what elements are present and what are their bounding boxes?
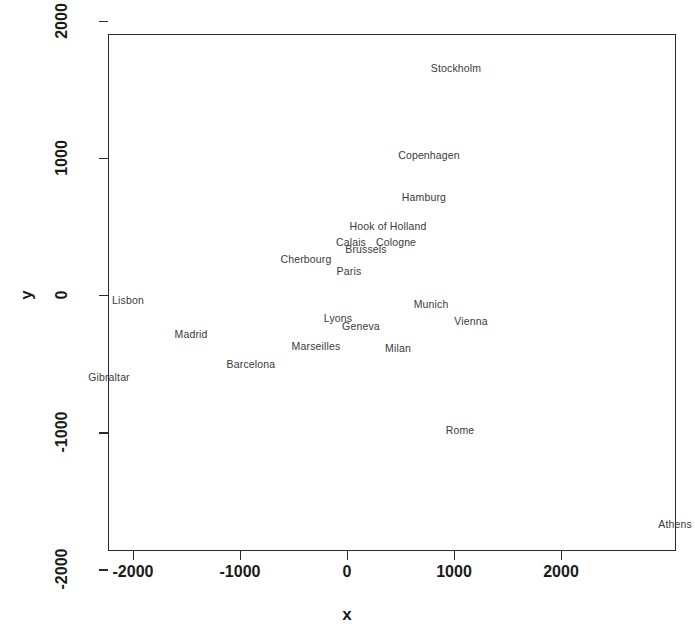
y-axis-tick [99,295,108,296]
y-axis-tick [99,158,108,159]
y-axis-tick-label: -1000 [53,412,71,453]
x-axis-tick-label: 0 [343,563,352,581]
data-point-label: Geneva [342,321,380,332]
x-axis-tick [454,551,455,560]
x-axis-label: x [342,605,351,625]
y-axis-label: y [17,290,37,299]
y-axis-tick-label: 2000 [53,3,71,39]
y-axis-tick [99,432,108,433]
data-point-label: Rome [446,425,475,436]
y-axis-tick [99,569,108,570]
data-point-label: Cherbourg [280,253,331,264]
data-point-label: Lisbon [112,294,144,305]
x-axis-tick [240,551,241,560]
x-axis-tick [133,551,134,560]
data-point-label: Vienna [454,315,487,326]
x-axis-tick [561,551,562,560]
x-axis-tick [347,551,348,560]
y-axis-tick-label: 1000 [53,140,71,176]
x-axis-tick-label: -2000 [113,563,154,581]
y-axis-tick-label: 0 [53,291,71,300]
x-axis-tick-label: 1000 [436,563,472,581]
data-point-label: Copenhagen [398,149,460,160]
data-point-label: Munich [414,298,449,309]
data-point-label: Milan [385,342,411,353]
data-point-label: Hook of Holland [350,221,427,232]
data-point-label: Athens [658,519,692,530]
data-point-label: Paris [337,266,362,277]
data-point-label: Barcelona [227,359,276,370]
x-axis-tick-label: 2000 [543,563,579,581]
data-point-label: Brussels [345,243,386,254]
y-axis-tick-label: -2000 [53,549,71,590]
y-axis-tick [99,21,108,22]
data-point-label: Hamburg [402,191,446,202]
scatter-plot-figure: StockholmCopenhagenHamburgHook of Hollan… [0,0,695,644]
data-point-label: Madrid [175,329,208,340]
x-axis-tick-label: -1000 [220,563,261,581]
data-point-label: Gibraltar [88,371,130,382]
data-point-label: Stockholm [431,62,481,73]
plot-area: StockholmCopenhagenHamburgHook of Hollan… [108,34,676,551]
data-point-label: Marseilles [292,340,341,351]
